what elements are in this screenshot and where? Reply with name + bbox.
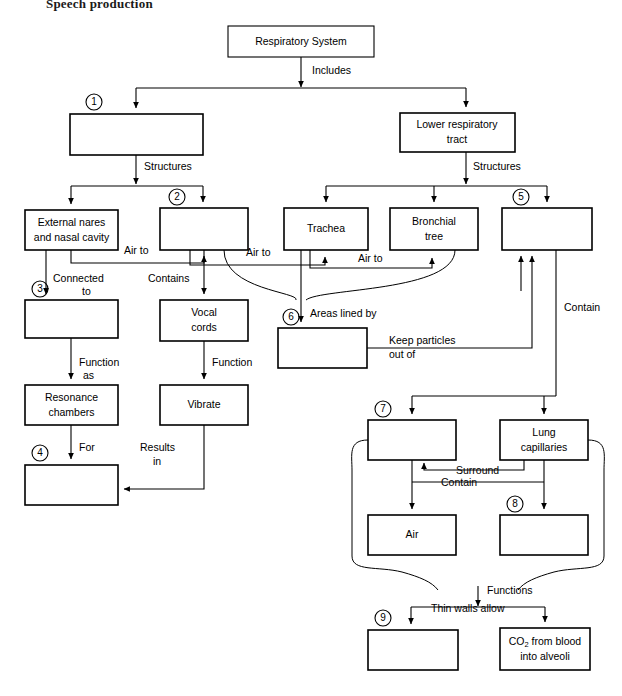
- node-box-7[interactable]: [368, 420, 456, 460]
- node-label-line1: Vocal: [191, 306, 217, 318]
- node-box-2[interactable]: [160, 208, 248, 250]
- node-resonance-chambers[interactable]: Resonance chambers: [25, 385, 118, 425]
- edge-label-areas-lined-by: Areas lined by: [310, 307, 377, 319]
- node-label-line2: and nasal cavity: [34, 231, 110, 243]
- node-box-5[interactable]: [502, 208, 592, 250]
- edge-label-functions: Functions: [487, 584, 533, 596]
- node-label: Vibrate: [187, 398, 220, 410]
- edge-label-connected-to-l1: Connected: [53, 272, 104, 284]
- node-number-4: 4: [32, 445, 48, 461]
- edge-label-contain-right: Contain: [564, 301, 600, 313]
- node-box-8[interactable]: [500, 515, 588, 555]
- svg-text:1: 1: [91, 96, 97, 107]
- svg-text:9: 9: [380, 612, 386, 623]
- edge-results-in: [124, 425, 204, 489]
- node-external-nares[interactable]: External nares and nasal cavity: [25, 210, 118, 250]
- node-label-line1: Resonance: [45, 391, 98, 403]
- edge-label-air-to-2: Air to: [246, 246, 271, 258]
- node-number-8: 8: [507, 496, 523, 512]
- edge-label-function-l2: as: [83, 369, 94, 381]
- node-label-line2: cords: [191, 321, 217, 333]
- node-label-line1: Bronchial: [412, 215, 456, 227]
- edge-label-structures-right: Structures: [473, 160, 521, 172]
- node-box-9[interactable]: [368, 630, 458, 670]
- node-label-line2: tree: [425, 230, 443, 242]
- edge-label-function-l1: Function: [79, 356, 119, 368]
- node-box-3[interactable]: [25, 300, 118, 338]
- node-number-2: 2: [169, 189, 185, 205]
- svg-text:7: 7: [380, 403, 386, 414]
- node-box-4[interactable]: [25, 465, 118, 505]
- svg-text:8: 8: [512, 498, 518, 509]
- node-box-6[interactable]: [278, 328, 367, 368]
- node-label: Respiratory System: [255, 35, 347, 47]
- edge-label-results-l1: Results: [140, 441, 175, 453]
- node-number-6: 6: [283, 309, 299, 325]
- node-label: Trachea: [307, 222, 345, 234]
- node-lung-capillaries[interactable]: Lung capillaries: [500, 420, 588, 460]
- node-lower-respiratory-tract[interactable]: Lower respiratory tract: [400, 113, 515, 152]
- node-label-line2: into alveoli: [520, 650, 570, 662]
- svg-text:5: 5: [518, 191, 524, 202]
- svg-text:4: 4: [37, 447, 43, 458]
- svg-text:6: 6: [288, 311, 294, 322]
- node-label-line1: Lower respiratory: [416, 118, 498, 130]
- edge-label-keep-particles-l1: Keep particles: [389, 334, 456, 346]
- svg-text:2: 2: [174, 191, 180, 202]
- node-respiratory-system[interactable]: Respiratory System: [228, 26, 374, 57]
- edge-label-structures-left: Structures: [144, 160, 192, 172]
- node-label-line1: Lung: [532, 426, 556, 438]
- node-number-5: 5: [513, 189, 529, 205]
- node-label-line2: tract: [447, 133, 468, 145]
- edge-label-for: For: [79, 441, 95, 453]
- svg-text:3: 3: [37, 283, 43, 294]
- node-label: Air: [406, 528, 419, 540]
- node-number-1: 1: [86, 94, 102, 110]
- edge-label-air-to-3: Air to: [358, 252, 383, 264]
- edge-label-includes: Includes: [312, 64, 351, 76]
- edge-label-thin-walls-allow: Thin walls allow: [431, 602, 505, 614]
- node-number-9: 9: [375, 610, 391, 626]
- node-box-1[interactable]: [70, 114, 203, 155]
- node-trachea[interactable]: Trachea: [284, 208, 368, 250]
- node-number-7: 7: [375, 401, 391, 417]
- concept-map-diagram: Respiratory System 1 Lower respiratory t…: [0, 0, 622, 696]
- edge-label-contains: Contains: [148, 272, 189, 284]
- node-air[interactable]: Air: [368, 515, 456, 555]
- node-label-line2: capillaries: [521, 441, 568, 453]
- node-label-line2: chambers: [48, 406, 94, 418]
- edge-label-surround: Surround: [456, 464, 499, 476]
- node-bronchial-tree[interactable]: Bronchial tree: [390, 208, 478, 250]
- edge-label-results-l2: in: [153, 455, 161, 467]
- node-vibrate[interactable]: Vibrate: [160, 385, 248, 425]
- node-vocal-cords[interactable]: Vocal cords: [160, 300, 248, 341]
- edge-label-air-to-1: Air to: [124, 244, 149, 256]
- node-co2-from-blood[interactable]: CO2 from blood into alveoli: [500, 628, 590, 670]
- edge-label-connected-to-l2: to: [82, 285, 91, 297]
- edge-label-function-vocal: Function: [212, 356, 252, 368]
- node-label-line1: External nares: [38, 216, 106, 228]
- edge-label-contain-mid: Contain: [441, 476, 477, 488]
- edge-label-keep-particles-l2: out of: [389, 348, 415, 360]
